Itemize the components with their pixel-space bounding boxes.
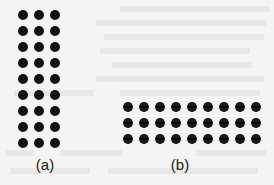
dot — [187, 102, 197, 112]
dot — [50, 90, 60, 100]
dot — [18, 42, 28, 52]
panel-a-label: (a) — [36, 157, 54, 172]
dot — [34, 138, 44, 148]
dot — [50, 138, 60, 148]
dot — [50, 42, 60, 52]
dot — [187, 118, 197, 128]
dot — [18, 90, 28, 100]
dot — [18, 122, 28, 132]
dot — [50, 58, 60, 68]
bleedthrough-mark — [196, 150, 266, 156]
dot — [219, 134, 229, 144]
dot — [18, 74, 28, 84]
dot — [187, 134, 197, 144]
dot — [235, 134, 245, 144]
dot — [50, 106, 60, 116]
dot — [203, 102, 213, 112]
dot — [235, 102, 245, 112]
dot — [18, 58, 28, 68]
dot — [18, 10, 28, 20]
dot — [34, 26, 44, 36]
bleedthrough-mark — [60, 150, 122, 156]
dot — [34, 122, 44, 132]
dot — [34, 58, 44, 68]
dot — [235, 118, 245, 128]
bleedthrough-mark — [104, 34, 264, 40]
dot — [18, 26, 28, 36]
dot — [34, 90, 44, 100]
dot — [123, 118, 133, 128]
dot — [34, 106, 44, 116]
dot — [18, 106, 28, 116]
bleedthrough-mark — [96, 76, 264, 82]
dot — [50, 74, 60, 84]
dot — [171, 118, 181, 128]
dot — [139, 102, 149, 112]
dot — [34, 74, 44, 84]
dot — [219, 118, 229, 128]
dot — [219, 102, 229, 112]
bleedthrough-mark — [112, 62, 252, 68]
bleedthrough-mark — [100, 48, 250, 54]
dot — [50, 10, 60, 20]
dot — [123, 134, 133, 144]
bleedthrough-mark — [120, 90, 260, 96]
dot — [139, 134, 149, 144]
dot — [155, 118, 165, 128]
dot — [34, 42, 44, 52]
dot-grid-b — [120, 99, 264, 147]
dot — [34, 10, 44, 20]
dot — [139, 118, 149, 128]
dot-grid-a — [15, 7, 63, 151]
dot — [155, 102, 165, 112]
dot — [251, 118, 261, 128]
dot — [123, 102, 133, 112]
dot — [171, 134, 181, 144]
dot — [50, 122, 60, 132]
dot — [251, 134, 261, 144]
dot — [50, 26, 60, 36]
dot — [171, 102, 181, 112]
bleedthrough-mark — [96, 20, 266, 26]
dot — [155, 134, 165, 144]
panel-b-label: (b) — [171, 157, 189, 172]
dot — [251, 102, 261, 112]
dot — [18, 138, 28, 148]
dot — [203, 118, 213, 128]
figure-container: (a) (b) — [0, 0, 274, 185]
bleedthrough-mark — [120, 6, 270, 12]
dot — [203, 134, 213, 144]
